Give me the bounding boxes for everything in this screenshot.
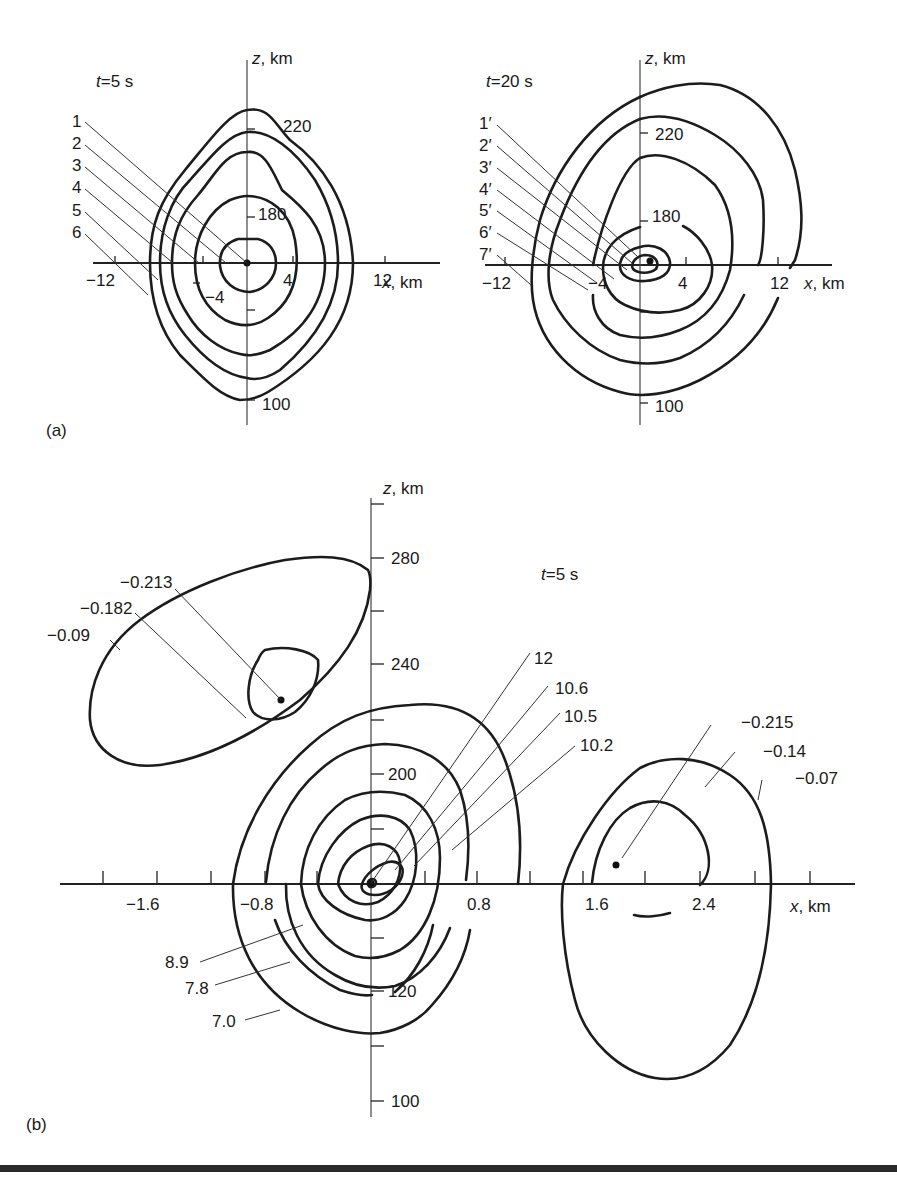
x-axis-label: x, km bbox=[803, 274, 845, 293]
x-tick-label: −12 bbox=[86, 271, 115, 290]
panel-a-left: 1 2 3 4 5 6 t=5 s z, km x, km −12 −4 4 1… bbox=[72, 49, 440, 425]
z-tick-label: 220 bbox=[283, 117, 311, 136]
contour-label-5p: 5′ bbox=[479, 201, 492, 220]
contour-label-5: 5 bbox=[72, 201, 81, 220]
panel-a-right: 1′ 2′ 3′ 4′ 5′ 6′ 7′ t=20 s z, km x, km … bbox=[479, 49, 845, 425]
level-label: −0.14 bbox=[763, 742, 806, 761]
x-tick-label: −12 bbox=[482, 274, 511, 293]
z-tick-label: 240 bbox=[391, 655, 419, 674]
contour-label-3: 3 bbox=[72, 156, 81, 175]
z-tick-label: 100 bbox=[262, 395, 290, 414]
x-tick-label: 0.8 bbox=[467, 895, 491, 914]
x-tick-label: 1.6 bbox=[585, 895, 609, 914]
z-axis-label: z, km bbox=[382, 479, 424, 498]
contour-label-6p: 6′ bbox=[479, 223, 492, 242]
x-tick-label: 12 bbox=[373, 271, 392, 290]
contour-label-2: 2 bbox=[72, 134, 81, 153]
x-tick-label: −4 bbox=[588, 274, 607, 293]
level-label: −0.215 bbox=[741, 713, 793, 732]
x-tick-label: −1.6 bbox=[126, 895, 160, 914]
contour-label-4: 4 bbox=[72, 178, 81, 197]
x-tick-label: 2.4 bbox=[692, 895, 716, 914]
time-label: t=20 s bbox=[486, 72, 533, 91]
x-tick-label: −0.8 bbox=[240, 895, 274, 914]
level-label: 7.0 bbox=[212, 1012, 236, 1031]
z-axis-label: z, km bbox=[644, 49, 686, 68]
page-divider-bar bbox=[0, 1165, 897, 1172]
level-label: 12 bbox=[534, 649, 553, 668]
x-tick-label: 4 bbox=[678, 274, 687, 293]
contour-label-1p: 1′ bbox=[479, 114, 492, 133]
contour-label-3p: 3′ bbox=[479, 158, 492, 177]
z-axis-label: z, km bbox=[251, 49, 293, 68]
level-label: 10.2 bbox=[580, 736, 613, 755]
contour-label-6: 6 bbox=[72, 223, 81, 242]
level-label: −0.09 bbox=[47, 626, 90, 645]
panel-b: −0.213 −0.182 −0.09 12 10.6 10.5 10.2 8.… bbox=[47, 479, 855, 1117]
z-tick-label: 100 bbox=[391, 1092, 419, 1111]
z-tick-label: 200 bbox=[388, 765, 416, 784]
level-label: 10.6 bbox=[555, 679, 588, 698]
x-axis-label: x, km bbox=[789, 897, 831, 916]
level-label: 8.9 bbox=[165, 953, 189, 972]
level-label: 10.5 bbox=[564, 707, 597, 726]
panel-a-label: (a) bbox=[46, 421, 67, 440]
level-label: −0.07 bbox=[795, 769, 838, 788]
time-label: t=5 s bbox=[541, 565, 578, 584]
contour-label-2p: 2′ bbox=[479, 136, 492, 155]
level-label: −0.182 bbox=[80, 599, 132, 618]
z-tick-label: 180 bbox=[258, 205, 286, 224]
level-label: −0.213 bbox=[120, 573, 172, 592]
x-tick-label: 12 bbox=[770, 274, 789, 293]
z-tick-label: 280 bbox=[391, 549, 419, 568]
z-tick-label: 220 bbox=[655, 125, 683, 144]
contour-label-4p: 4′ bbox=[479, 180, 492, 199]
z-tick-label: 120 bbox=[388, 982, 416, 1001]
x-tick-label: −4 bbox=[205, 288, 224, 307]
panel-b-label: (b) bbox=[26, 1115, 47, 1134]
x-tick-label: 4 bbox=[283, 271, 292, 290]
time-label: t=5 s bbox=[96, 72, 133, 91]
contour-label-7p: 7′ bbox=[479, 245, 492, 264]
contour-label-1: 1 bbox=[72, 112, 81, 131]
figure-canvas: 1 2 3 4 5 6 t=5 s z, km x, km −12 −4 4 1… bbox=[0, 0, 897, 1187]
z-tick-label: 100 bbox=[655, 397, 683, 416]
z-tick-label: 180 bbox=[652, 207, 680, 226]
level-label: 7.8 bbox=[185, 979, 209, 998]
